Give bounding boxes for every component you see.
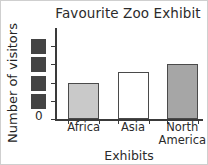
x-axis-tick-labels: AfricaAsiaNorthAmerica	[55, 122, 203, 146]
bar-north-america	[167, 64, 198, 119]
x-axis-label-line: Africa	[67, 120, 100, 134]
chart-title: Favourite Zoo Exhibit	[51, 5, 205, 21]
y-axis-title-wrapper: Number of visitors	[3, 19, 21, 147]
y-axis-obscured-label-1	[31, 94, 46, 109]
x-axis-label-line: North	[166, 120, 198, 134]
y-axis-tick-0	[51, 119, 56, 120]
x-axis-title: Exhibits	[55, 148, 203, 163]
y-axis-tick-4	[51, 46, 56, 47]
bar-africa	[68, 83, 99, 119]
plot-area	[55, 28, 203, 120]
y-axis-tick-2	[51, 83, 56, 84]
x-axis-label-line: Asia	[121, 120, 145, 134]
y-axis-tick-1	[51, 101, 56, 102]
y-axis-obscured-label-3	[31, 57, 46, 72]
x-axis-label-line: America	[148, 135, 208, 147]
x-axis-label-north-america: NorthAmerica	[148, 122, 208, 146]
y-axis-tick-3	[51, 64, 56, 65]
y-axis-obscured-label-2	[31, 76, 46, 91]
y-axis-zero-label: 0	[35, 109, 43, 123]
y-axis-line	[55, 28, 57, 121]
y-axis-title: Number of visitors	[5, 23, 20, 143]
bar-asia	[118, 72, 149, 119]
y-axis-obscured-label-4	[31, 39, 46, 54]
zoo-exhibit-bar-chart: Favourite Zoo Exhibit Number of visitors…	[0, 0, 208, 165]
